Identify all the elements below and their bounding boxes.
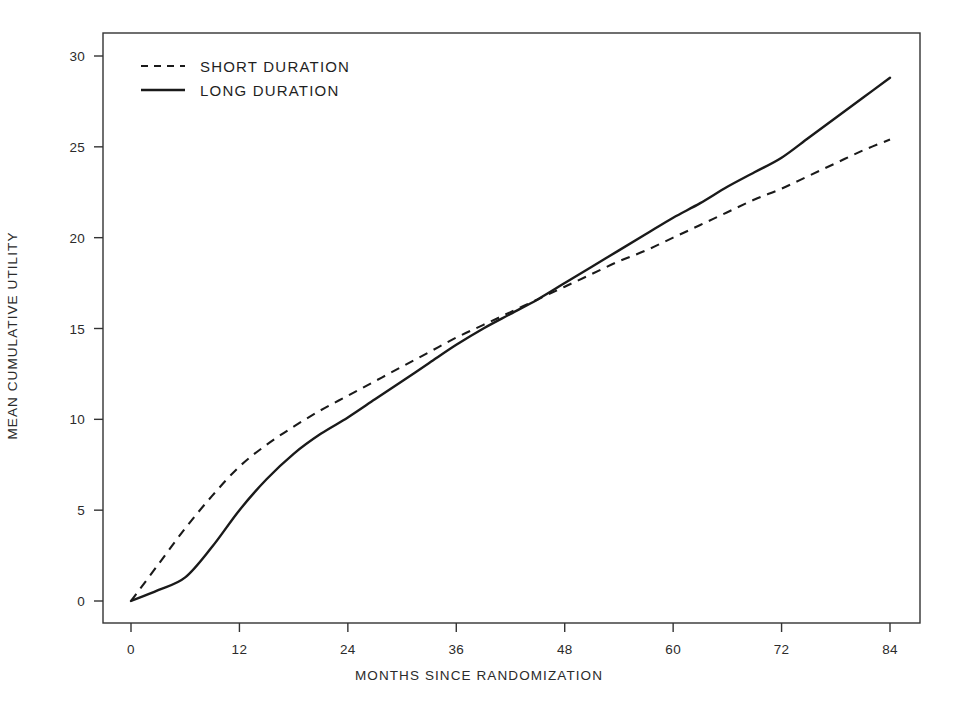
solid-line-icon [140, 84, 186, 96]
y-tick-label: 5 [0, 503, 85, 518]
x-tick-label: 60 [665, 642, 681, 657]
x-axis-ticks [131, 623, 890, 632]
y-tick-label: 0 [0, 594, 85, 609]
y-axis-title: MEAN CUMULATIVE UTILITY [5, 231, 20, 439]
x-tick-label: 84 [882, 642, 898, 657]
series-line-long-duration [131, 78, 890, 601]
legend-label-long-duration: LONG DURATION [200, 82, 340, 99]
legend-item-long-duration: LONG DURATION [140, 78, 440, 102]
x-tick-label: 12 [232, 642, 248, 657]
plot-frame [103, 33, 920, 623]
x-tick-label: 36 [448, 642, 464, 657]
x-axis-title: MONTHS SINCE RANDOMIZATION [0, 668, 958, 683]
y-tick-label: 30 [0, 49, 85, 64]
chart-figure: 051015202530 012243648607284 MEAN CUMULA… [0, 0, 958, 717]
plot-canvas [0, 0, 958, 717]
chart-legend: SHORT DURATION LONG DURATION [140, 54, 440, 102]
y-axis-ticks [94, 56, 103, 601]
legend-label-short-duration: SHORT DURATION [200, 58, 350, 75]
x-tick-label: 48 [557, 642, 573, 657]
series-line-short-duration [131, 140, 890, 601]
x-tick-label: 24 [340, 642, 356, 657]
y-tick-label: 25 [0, 139, 85, 154]
x-tick-label: 0 [127, 642, 135, 657]
legend-item-short-duration: SHORT DURATION [140, 54, 440, 78]
x-tick-label: 72 [774, 642, 790, 657]
dashed-line-icon [140, 60, 186, 72]
